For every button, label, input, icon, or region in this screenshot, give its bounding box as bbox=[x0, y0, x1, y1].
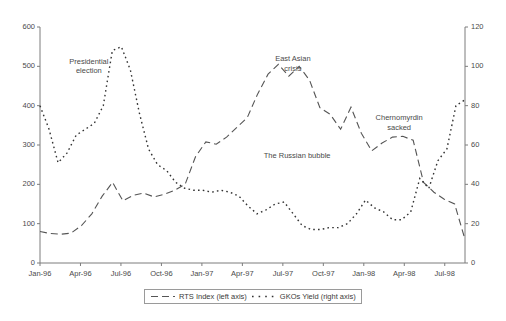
left-axis-tick-label: 200 bbox=[2, 179, 35, 188]
x-axis-tick-label: Oct-97 bbox=[300, 269, 346, 278]
legend-dotted-swatch bbox=[251, 293, 277, 300]
x-axis-tick-label: Jan-98 bbox=[341, 269, 387, 278]
left-axis-tick-label: 300 bbox=[2, 140, 35, 149]
annotation-east-asian-crisis: East Asian crisis bbox=[248, 54, 338, 73]
right-axis-tick-label: 20 bbox=[471, 219, 503, 228]
right-axis-tick-label: 0 bbox=[471, 258, 503, 267]
x-axis-tick-label: Jan-97 bbox=[179, 269, 225, 278]
x-axis-tick-label: Apr-96 bbox=[57, 269, 103, 278]
right-axis-tick-label: 80 bbox=[471, 101, 503, 110]
x-axis-tick-label: Jul-97 bbox=[260, 269, 306, 278]
legend-item-rts: RTS Index (left axis) bbox=[150, 292, 247, 301]
legend-label-gkos: GKOs Yield (right axis) bbox=[280, 292, 356, 301]
right-axis-tick-label: 40 bbox=[471, 179, 503, 188]
left-axis-tick-label: 500 bbox=[2, 61, 35, 70]
x-axis-tick-label: Jan-96 bbox=[17, 269, 63, 278]
x-axis-tick-label: Jul-98 bbox=[422, 269, 468, 278]
series-layer bbox=[40, 47, 465, 240]
annotation-chernomyrdin-sacked: Chernomyrdin sacked bbox=[354, 113, 444, 132]
left-axis-tick-label: 100 bbox=[2, 219, 35, 228]
left-axis-tick-label: 0 bbox=[2, 258, 35, 267]
x-axis-tick-label: Jul-96 bbox=[98, 269, 144, 278]
legend-label-rts: RTS Index (left axis) bbox=[179, 292, 247, 301]
right-axis-tick-label: 60 bbox=[471, 140, 503, 149]
chart-legend: RTS Index (left axis) GKOs Yield (right … bbox=[144, 289, 362, 304]
legend-item-gkos: GKOs Yield (right axis) bbox=[251, 292, 356, 301]
x-axis-tick-label: Oct-96 bbox=[138, 269, 184, 278]
legend-dashed-swatch bbox=[150, 293, 176, 300]
right-axis-tick-label: 100 bbox=[471, 61, 503, 70]
left-axis-tick-label: 600 bbox=[2, 22, 35, 31]
right-axis-tick-label: 120 bbox=[471, 22, 503, 31]
x-axis-tick-label: Apr-98 bbox=[381, 269, 427, 278]
annotation-presidential-election: Presidential election bbox=[44, 57, 134, 76]
left-axis-tick-label: 400 bbox=[2, 101, 35, 110]
x-axis-tick-label: Apr-97 bbox=[219, 269, 265, 278]
annotation-the-russian-bubble: The Russian bubble bbox=[252, 151, 342, 161]
